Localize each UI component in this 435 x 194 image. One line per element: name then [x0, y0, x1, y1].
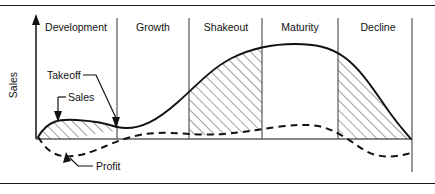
- stage-label-decline: Decline: [360, 21, 395, 33]
- y-axis-label: Sales: [7, 72, 19, 98]
- stage-label-shakeout: Shakeout: [204, 21, 248, 33]
- profit-arrowhead: [63, 152, 71, 163]
- top-rule: [0, 5, 435, 6]
- y-axis-arrowhead: [32, 14, 40, 25]
- chart-canvas: Development Growth Shakeout Maturity Dec…: [0, 0, 435, 194]
- annotation-label-profit: Profit: [96, 160, 121, 172]
- product-life-cycle-figure: Development Growth Shakeout Maturity Dec…: [0, 0, 435, 194]
- annotation-label-takeoff: Takeoff: [47, 69, 81, 81]
- bottom-rule: [0, 183, 435, 184]
- stage-label-development: Development: [45, 21, 107, 33]
- stage-label-maturity: Maturity: [281, 21, 319, 33]
- stage-label-growth: Growth: [136, 21, 170, 33]
- profit-leader-line: [70, 158, 93, 166]
- stage-labels: Development Growth Shakeout Maturity Dec…: [45, 21, 396, 33]
- annotation-label-sales: Sales: [68, 91, 94, 103]
